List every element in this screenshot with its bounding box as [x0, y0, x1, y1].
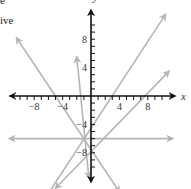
y-tick-label: 8	[82, 34, 87, 45]
x-tick-label: −8	[29, 101, 40, 112]
line-up-right-shallow	[56, 71, 170, 188]
y-tick-label: 4	[82, 62, 87, 73]
y-axis-label: y	[92, 0, 98, 3]
coordinate-plane: −8−44884−4−8xy	[0, 0, 191, 189]
x-axis-label: x	[180, 90, 186, 102]
x-tick-label: −4	[57, 101, 68, 112]
y-tick-label: −8	[76, 147, 87, 158]
x-tick-label: 4	[117, 101, 122, 112]
y-tick-label: −4	[76, 119, 87, 130]
line-up-left	[16, 38, 119, 189]
x-tick-label: 8	[145, 101, 150, 112]
